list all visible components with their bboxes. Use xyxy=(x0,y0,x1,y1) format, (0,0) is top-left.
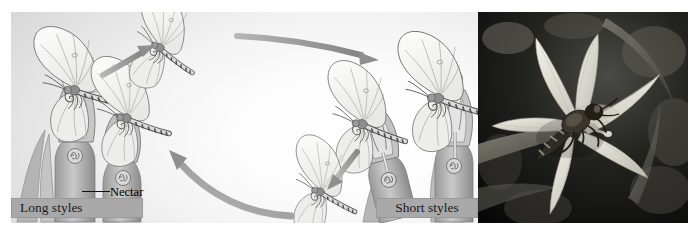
label-short-styles-text: Short styles xyxy=(395,200,458,216)
nectar-leader-line xyxy=(82,191,110,192)
label-short-styles: Short styles xyxy=(376,198,478,218)
arrow-return-to-long-flower xyxy=(169,150,291,216)
label-long-styles-text: Long styles xyxy=(20,200,83,216)
label-nectar: Nectar xyxy=(110,185,143,199)
label-long-styles: Long styles xyxy=(11,198,143,218)
crocus-flower-with-bee-photograph xyxy=(478,12,688,223)
pollination-figure: Long styles Short styles Nectar xyxy=(0,0,692,241)
arrow-flight-to-short-flower xyxy=(237,36,379,65)
